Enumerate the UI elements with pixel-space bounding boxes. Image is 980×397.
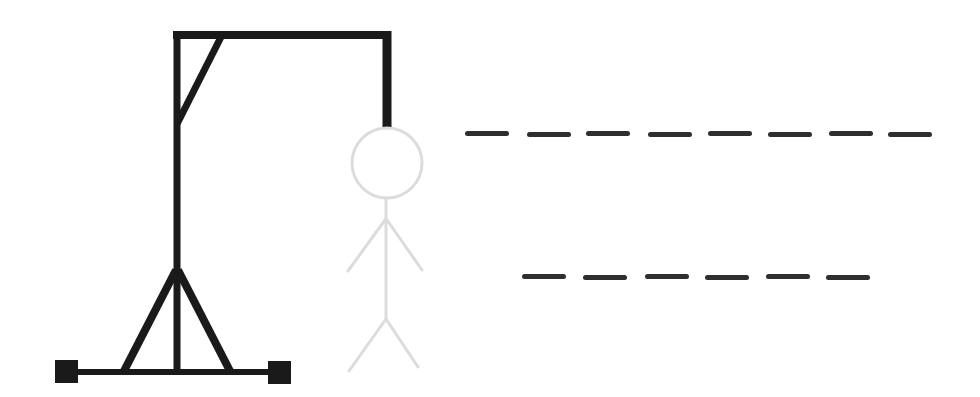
- letter-slot: [768, 132, 812, 137]
- letter-slot: [708, 131, 752, 136]
- figure-right-leg: [386, 319, 418, 367]
- gallows-left-leg: [124, 270, 176, 371]
- figure-head: [352, 128, 422, 198]
- gallows-brace: [177, 37, 221, 124]
- stick-figure: [348, 128, 422, 371]
- gallows-base-left-foot: [55, 360, 78, 383]
- letter-slot: [465, 131, 509, 136]
- letter-slot: [645, 274, 689, 279]
- letter-slot: [648, 132, 692, 137]
- hangman-game: [0, 0, 980, 397]
- letter-slot: [766, 274, 810, 279]
- letter-slot: [888, 132, 932, 137]
- letter-slot: [522, 274, 566, 279]
- letter-slot: [586, 131, 630, 136]
- letter-slot: [705, 275, 749, 280]
- letter-slot: [527, 132, 571, 137]
- gallows-base-right-foot: [268, 361, 291, 384]
- figure-right-arm: [387, 220, 422, 270]
- hangman-drawing: [0, 0, 980, 397]
- letter-slot: [829, 131, 873, 136]
- figure-left-leg: [349, 319, 386, 371]
- gallows: [55, 31, 391, 384]
- gallows-right-leg: [178, 270, 230, 371]
- figure-left-arm: [348, 220, 385, 271]
- letter-slot: [583, 275, 627, 280]
- letter-slot: [826, 275, 870, 280]
